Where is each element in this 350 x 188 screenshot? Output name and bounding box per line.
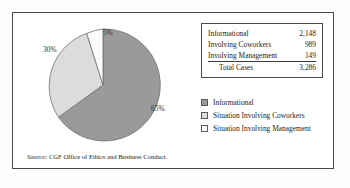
source-prefix: Source: bbox=[27, 153, 47, 160]
pie-label-management: 5% bbox=[103, 28, 113, 37]
case-totals-table: Informational 2,148 Involving Coworkers … bbox=[201, 23, 323, 78]
figure-page: 65% 30% 5% Informational 2,148 Involving… bbox=[0, 0, 350, 188]
pie-label-informational: 65% bbox=[151, 104, 165, 113]
legend-item-management: Situation Involving Management bbox=[201, 125, 333, 132]
table-row-total: Total Cases 3,286 bbox=[208, 61, 316, 73]
legend-item-label: Informational bbox=[213, 99, 254, 106]
table-cell-label: Involving Management bbox=[208, 50, 295, 61]
pie-label-coworkers: 30% bbox=[43, 45, 57, 54]
pie-chart: 65% 30% 5% bbox=[23, 19, 193, 144]
legend-swatch-icon bbox=[201, 99, 208, 106]
legend-item-informational: Informational bbox=[201, 99, 333, 106]
legend-item-coworkers: Situation Involving Coworkers bbox=[201, 112, 333, 119]
legend-swatch-icon bbox=[201, 112, 208, 119]
table-cell-total-value: 3,286 bbox=[295, 61, 316, 73]
table-cell-total-label: Total Cases bbox=[208, 61, 295, 73]
table-cell-value: 2,148 bbox=[295, 28, 316, 39]
table-cell-label: Involving Coworkers bbox=[208, 39, 295, 50]
table-row: Informational 2,148 bbox=[208, 28, 316, 39]
pie-chart-svg bbox=[23, 19, 193, 144]
legend-item-label: Situation Involving Coworkers bbox=[213, 112, 305, 119]
legend-item-label: Situation Involving Management bbox=[213, 125, 311, 132]
figure-frame: 65% 30% 5% Informational 2,148 Involving… bbox=[12, 12, 334, 169]
case-totals-table-grid: Informational 2,148 Involving Coworkers … bbox=[208, 28, 316, 73]
table-cell-value: 989 bbox=[295, 39, 316, 50]
table-row: Involving Coworkers 989 bbox=[208, 39, 316, 50]
source-text: CGF Office of Ethics and Business Conduc… bbox=[49, 153, 167, 160]
source-note: Source: CGF Office of Ethics and Busines… bbox=[27, 153, 167, 160]
table-cell-label: Informational bbox=[208, 28, 295, 39]
table-cell-value: 149 bbox=[295, 50, 316, 61]
legend-swatch-icon bbox=[201, 125, 208, 132]
table-row: Involving Management 149 bbox=[208, 50, 316, 61]
chart-legend: Informational Situation Involving Cowork… bbox=[201, 99, 333, 138]
